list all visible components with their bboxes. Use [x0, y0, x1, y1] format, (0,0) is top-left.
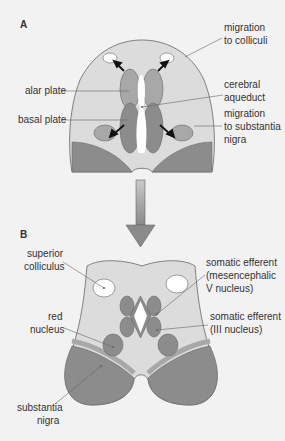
- label-alar-plate: alar plate: [25, 85, 67, 96]
- label-migration-substantia: migrationto substantianigra: [224, 108, 281, 145]
- label-superior-colliculus: superiorcolliculus: [24, 248, 65, 272]
- midbrain-development-diagram: A migrationto colliculi alar plate cereb…: [0, 0, 285, 441]
- label-red-nucleus: rednucleus: [30, 311, 64, 335]
- label-somatic-efferent-iii: somatic efferent(III nucleus): [210, 311, 281, 335]
- panel-a-label: A: [20, 19, 27, 30]
- transition-arrow: [126, 180, 155, 247]
- substantia-migration-target-right: [171, 125, 193, 141]
- red-nucleus-right: [158, 334, 178, 356]
- label-somatic-efferent-v: somatic efferent(mesencephalicV nucleus): [206, 257, 277, 294]
- label-substantia-nigra: substantianigra: [17, 402, 63, 426]
- label-cerebral-aqueduct: cerebralaqueduct: [224, 79, 265, 103]
- panel-b-cross-section: [65, 261, 218, 405]
- label-basal-plate: basal plate: [18, 114, 67, 125]
- superior-colliculus-right: [166, 275, 188, 293]
- red-nucleus-left: [103, 334, 123, 356]
- label-migration-colliculi: migrationto colliculi: [224, 22, 267, 46]
- panel-b-label: B: [20, 229, 27, 240]
